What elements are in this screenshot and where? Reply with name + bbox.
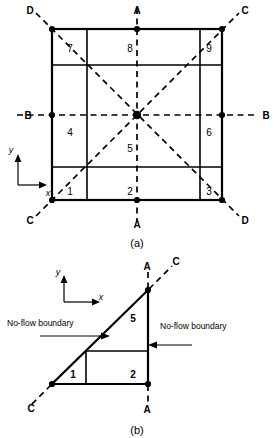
section-label-b-A-bottom: A [143,404,150,415]
node-dot-b-bottom-left [49,381,55,387]
cell-label-b-1: 1 [70,369,76,380]
section-label-b-A-top: A [143,261,150,272]
section-label-C-bottom-left: C [26,215,33,226]
axis-y-label-b: y [55,267,61,277]
cell-label-4: 4 [67,127,73,138]
cell-label-9: 9 [206,43,212,54]
annotation-arrow-right-head [148,342,157,349]
node-dot-top-mid [134,26,140,32]
section-label-D-bottom-right: D [241,215,248,226]
section-label-A-bottom: A [133,219,140,230]
node-dot-top-left [49,26,55,32]
annotation-arrow-left-head [101,333,110,340]
annotation-no-flow-left: No-flow boundary [7,318,74,328]
node-dot-right-mid [219,112,225,118]
axis-y-label-a: y [8,145,14,155]
section-label-b-C-top-right: C [172,256,179,267]
symmetry-line-CC-lower-b [31,385,51,405]
axes-a: y x [8,145,51,198]
panel-b: 5 1 2 A C C A y x No-flow [7,256,227,436]
caption-a: (a) [130,237,143,249]
section-label-b-C-bottom-left: C [27,403,34,414]
node-dot-bottom-right [219,197,225,203]
axis-x-label-a: x [45,188,51,198]
cell-label-b-2: 2 [130,369,136,380]
node-dot-b-apex [145,287,151,293]
axes-b: y x [55,267,104,305]
cell-label-6: 6 [206,127,212,138]
node-dot-centre [133,111,141,119]
axis-y-arrowhead-b [61,275,68,283]
cell-label-3: 3 [206,186,212,197]
figure-root: 7 8 9 4 5 6 1 2 3 D A C B B C A D [0,0,274,438]
cell-label-1: 1 [67,186,73,197]
cell-label-8: 8 [127,43,133,54]
axis-x-label-b: x [98,292,104,302]
annotation-no-flow-right: No-flow boundary [160,321,227,331]
cell-label-2: 2 [127,186,133,197]
node-dot-left-mid [49,112,55,118]
panel-a: 7 8 9 4 5 6 1 2 3 D A C B B C A D [8,5,270,249]
annotations-b: No-flow boundary No-flow boundary [7,318,227,348]
section-label-D-top-left: D [26,5,33,16]
section-label-C-top-right: C [241,5,248,16]
cell-label-5: 5 [127,143,133,154]
cell-label-7: 7 [67,43,73,54]
node-dot-b-bottom-right [145,381,151,387]
cell-label-b-5: 5 [130,313,136,324]
node-dot-top-right [219,26,225,32]
axis-y-arrowhead-a [15,154,22,162]
cell-numbers-b: 5 1 2 [70,313,136,380]
diagram-canvas: 7 8 9 4 5 6 1 2 3 D A C B B C A D [0,0,274,438]
section-label-B-left: B [24,110,31,121]
section-label-A-top: A [133,5,140,16]
section-label-B-right: B [262,110,269,121]
caption-b: (b) [130,424,143,436]
node-dot-bottom-mid [134,197,140,203]
symmetry-line-CC-upper-b [149,266,172,289]
